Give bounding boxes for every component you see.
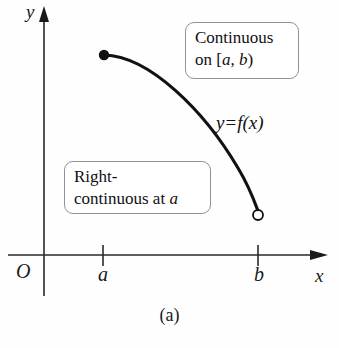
callout-continuous-line2-suffix: ) xyxy=(247,50,253,69)
function-label-equals: = xyxy=(224,112,237,133)
y-axis-arrowhead xyxy=(39,6,49,22)
function-equation-label: y=f(x) xyxy=(216,113,264,132)
x-axis-arrowhead xyxy=(310,250,328,260)
closed-endpoint-dot xyxy=(99,50,109,60)
callout-right-continuous-line2-prefix: continuous at xyxy=(74,189,169,208)
tick-label-a: a xyxy=(93,264,113,284)
callout-continuous-line2-mid: , xyxy=(230,50,239,69)
callout-right-continuous-var-a: a xyxy=(169,189,178,208)
figure-continuity-a: y x O a b Continuous on [a, b) Right- co… xyxy=(0,0,339,348)
callout-continuous-on-interval: Continuous on [a, b) xyxy=(185,22,299,79)
callout-right-continuous-at-a: Right- continuous at a xyxy=(64,161,211,214)
origin-label: O xyxy=(16,261,30,281)
tick-label-b: b xyxy=(249,264,269,284)
y-axis-label: y xyxy=(26,2,34,21)
callout-continuous-line2-prefix: on [ xyxy=(195,50,222,69)
x-axis-label: x xyxy=(315,266,323,285)
function-label-fx: f(x) xyxy=(237,112,263,133)
callout-continuous-line1: Continuous xyxy=(195,28,273,47)
callout-right-continuous-line1: Right- xyxy=(74,167,117,186)
open-endpoint-circle xyxy=(253,210,263,220)
figure-caption: (a) xyxy=(0,306,339,324)
